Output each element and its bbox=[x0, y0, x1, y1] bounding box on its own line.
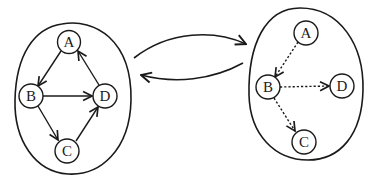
graph-transformation-diagram: A B D C bbox=[0, 0, 373, 185]
left-graph: A B D C bbox=[15, 23, 131, 174]
left-node-B-label: B bbox=[26, 88, 36, 104]
transformation-arrows bbox=[134, 35, 246, 80]
right-node-A: A bbox=[294, 21, 318, 45]
diagram-canvas: A B D C bbox=[0, 0, 373, 185]
right-graph: A B D C bbox=[249, 8, 363, 160]
edge-right-B-C bbox=[274, 98, 295, 131]
right-node-C: C bbox=[292, 130, 316, 154]
right-node-C-label: C bbox=[299, 134, 309, 150]
right-node-D-label: D bbox=[337, 78, 348, 94]
edge-left-B-C bbox=[38, 106, 58, 140]
left-node-A: A bbox=[58, 31, 81, 54]
edge-left-D-A bbox=[78, 51, 99, 85]
edge-left-C-D bbox=[76, 107, 98, 141]
left-node-A-label: A bbox=[64, 34, 75, 50]
left-node-B: B bbox=[19, 84, 43, 108]
right-node-D: D bbox=[330, 74, 354, 98]
right-node-A-label: A bbox=[301, 25, 312, 41]
edge-right-A-B bbox=[275, 42, 298, 77]
edge-left-A-B bbox=[38, 51, 61, 86]
edge-right-B-D bbox=[280, 86, 329, 87]
right-node-B-label: B bbox=[263, 79, 273, 95]
arrow-right-to-left bbox=[141, 63, 243, 80]
left-node-D-label: D bbox=[100, 88, 111, 104]
right-node-B: B bbox=[256, 75, 280, 99]
left-node-C-label: C bbox=[62, 143, 72, 159]
left-node-D: D bbox=[93, 84, 117, 108]
arrow-left-to-right bbox=[134, 35, 246, 58]
left-node-C: C bbox=[55, 139, 79, 163]
